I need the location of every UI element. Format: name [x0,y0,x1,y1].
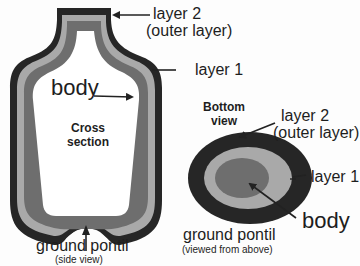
label-layer1: layer 1 [195,61,243,78]
label-bottom: Bottom [199,100,249,114]
label-bottom-layer1: layer 1 [311,168,359,185]
label-body: body [51,77,99,99]
label-bottom-layer2-sub: (outer layer) [273,124,359,141]
label-section: section [60,135,116,149]
diagram-canvas: layer 2 (outer layer) layer 1 body Cross… [0,0,360,266]
label-view: view [199,114,249,128]
label-layer2: layer 2 [153,5,201,22]
label-layer2-sub: (outer layer) [146,22,232,39]
arrow-body [94,96,132,97]
label-bottom-body: body [302,210,350,232]
label-ground-pontil-above: ground pontil [183,226,276,243]
label-viewed-from-above: (viewed from above) [182,244,273,255]
label-cross: Cross [66,121,110,135]
label-ground-pontil-side: ground pontil [36,237,129,254]
label-bottom-layer2: layer 2 [281,107,329,124]
label-side-view: (side view) [55,254,103,265]
bottom-view-ellipses [188,132,312,224]
